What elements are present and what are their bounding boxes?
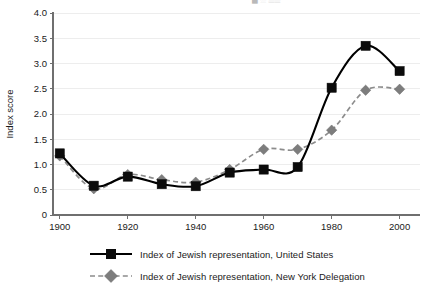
data-point-united-states: [395, 66, 404, 75]
legend-key-diamond-marker: [88, 268, 134, 284]
data-point-united-states: [157, 180, 166, 189]
svg-text:0: 0: [42, 209, 47, 220]
data-point-new-york-delegation: [394, 84, 404, 94]
svg-text:1980: 1980: [321, 221, 342, 232]
data-point-new-york-delegation: [258, 144, 268, 154]
data-point-new-york-delegation: [292, 144, 302, 154]
legend-item-united-states: Index of Jewish representation, United S…: [0, 243, 430, 265]
data-point-united-states: [293, 162, 302, 171]
svg-text:3.0: 3.0: [34, 58, 47, 69]
data-point-united-states: [123, 172, 132, 181]
svg-text:2000: 2000: [389, 221, 410, 232]
gridlines: [53, 13, 420, 190]
y-tick-labels: 00.51.01.52.02.53.03.54.0: [34, 7, 47, 220]
legend-label-united-states: Index of Jewish representation, United S…: [134, 249, 333, 260]
svg-text:3.5: 3.5: [34, 33, 47, 44]
svg-text:4.0: 4.0: [34, 7, 47, 18]
data-point-united-states: [191, 182, 200, 191]
series-markers: [55, 41, 405, 194]
legend-item-new-york-delegation: Index of Jewish representation, New York…: [0, 265, 430, 287]
y-axis-title: Index score: [4, 89, 15, 138]
plot-area: 00.51.01.52.02.53.03.54.0 19001920194019…: [0, 0, 430, 240]
svg-text:2.5: 2.5: [34, 83, 47, 94]
svg-text:0.5: 0.5: [34, 184, 47, 195]
data-point-united-states: [55, 149, 64, 158]
legend-label-new-york-delegation: Index of Jewish representation, New York…: [134, 271, 365, 282]
axis-titles: Index score: [4, 89, 15, 138]
x-tick-labels: 190019201940196019802000: [49, 221, 410, 232]
line-chart-svg: 00.51.01.52.02.53.03.54.0 19001920194019…: [0, 0, 430, 240]
chart-figure: █ ░ ▒▒ 00.51.01.52.02.53.03.54.0 1900192…: [0, 0, 430, 290]
data-point-united-states: [361, 41, 370, 50]
data-point-united-states: [259, 165, 268, 174]
svg-text:1960: 1960: [253, 221, 274, 232]
data-point-united-states: [225, 168, 234, 177]
legend-key-square-marker: [88, 246, 134, 262]
svg-text:1900: 1900: [49, 221, 70, 232]
data-point-united-states: [327, 83, 336, 92]
svg-text:1940: 1940: [185, 221, 206, 232]
svg-text:2.0: 2.0: [34, 108, 47, 119]
data-point-united-states: [89, 181, 98, 190]
svg-text:1.0: 1.0: [34, 159, 47, 170]
svg-text:1.5: 1.5: [34, 134, 47, 145]
diamond-marker-icon: [88, 268, 134, 284]
data-point-new-york-delegation: [360, 85, 370, 95]
chart-legend: Index of Jewish representation, United S…: [0, 243, 430, 290]
square-marker-icon: [88, 246, 134, 262]
svg-text:1920: 1920: [117, 221, 138, 232]
